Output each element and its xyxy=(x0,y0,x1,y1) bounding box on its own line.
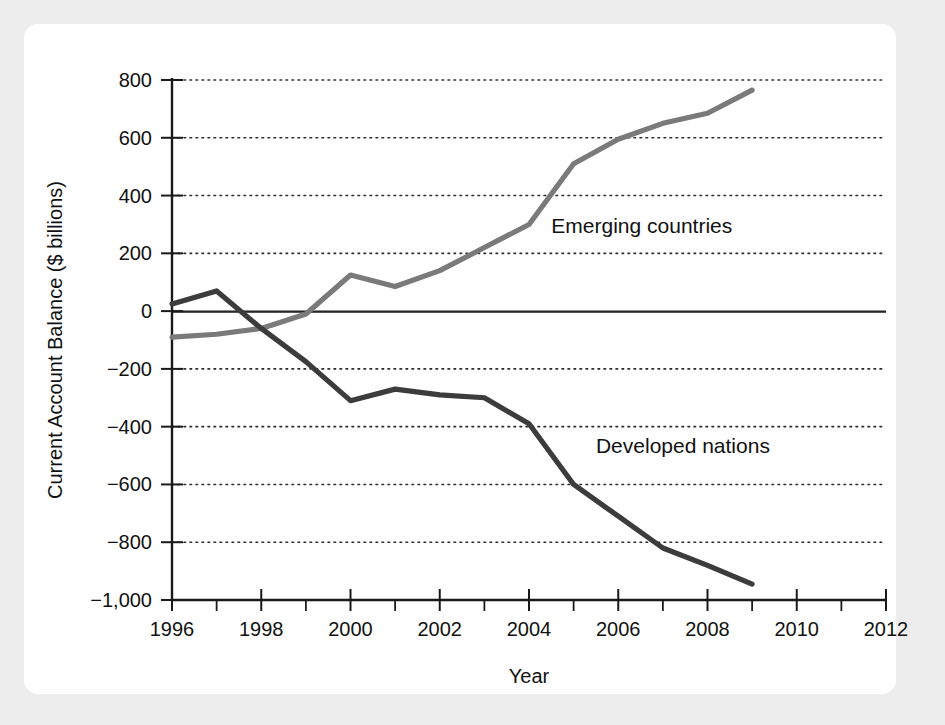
x-tick-label-2000: 2000 xyxy=(328,618,373,640)
line-chart: −1,000−800−600−400−2000200400600800 1996… xyxy=(0,0,945,725)
x-tick-label-1996: 1996 xyxy=(150,618,195,640)
y-tick-label-400: 400 xyxy=(119,185,152,207)
grid-lines xyxy=(172,80,886,542)
y-tick-label--1000: −1,000 xyxy=(90,589,152,611)
series-label-emerging-countries: Emerging countries xyxy=(551,214,732,237)
y-tick-label--400: −400 xyxy=(107,416,152,438)
data-series-group xyxy=(172,90,752,584)
x-tick-label-2004: 2004 xyxy=(507,618,552,640)
y-tick-label--600: −600 xyxy=(107,473,152,495)
x-tick-label-2002: 2002 xyxy=(418,618,463,640)
y-tick-label-0: 0 xyxy=(141,300,152,322)
y-axis-ticks: −1,000−800−600−400−2000200400600800 xyxy=(90,69,183,611)
x-tick-label-2006: 2006 xyxy=(596,618,641,640)
x-tick-label-1998: 1998 xyxy=(239,618,284,640)
x-tick-label-2012: 2012 xyxy=(864,618,909,640)
y-tick-label--800: −800 xyxy=(107,531,152,553)
x-tick-label-2010: 2010 xyxy=(775,618,820,640)
y-axis-title: Current Account Balance ($ billions) xyxy=(44,181,66,499)
x-axis-ticks: 199619982000200220042006200820102012 xyxy=(150,589,909,640)
series-label-developed-nations: Developed nations xyxy=(596,434,770,457)
y-tick-label--200: −200 xyxy=(107,358,152,380)
y-tick-label-800: 800 xyxy=(119,69,152,91)
y-tick-label-600: 600 xyxy=(119,127,152,149)
x-axis-title: Year xyxy=(509,665,550,687)
figure-page: −1,000−800−600−400−2000200400600800 1996… xyxy=(0,0,945,725)
x-tick-label-2008: 2008 xyxy=(685,618,730,640)
y-tick-label-200: 200 xyxy=(119,242,152,264)
